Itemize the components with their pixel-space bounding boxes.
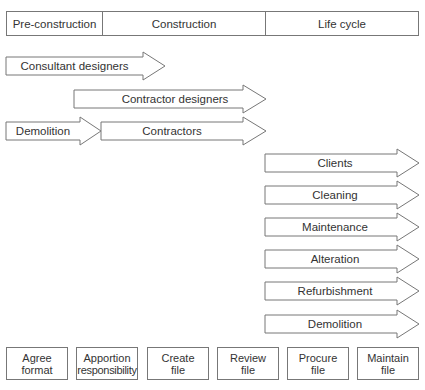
task-line: Apportion: [77, 352, 136, 364]
task-review-file: Reviewfile: [217, 347, 279, 380]
task-line: file: [161, 364, 194, 376]
task-line: Agree: [21, 352, 52, 364]
arrow-maintenance: Maintenance: [265, 218, 405, 236]
task-agree-format: Agreeformat: [6, 347, 68, 380]
task-line: file: [367, 364, 409, 376]
task-line: format: [21, 364, 52, 376]
file-responsibility-diagram: Pre-construction Construction Life cycle…: [0, 0, 425, 390]
task-line: Review: [230, 352, 266, 364]
arrow-contractor-designers: Contractor designers: [100, 90, 250, 108]
task-line: Maintain: [367, 352, 409, 364]
task-maintain-file: Maintainfile: [357, 347, 419, 380]
arrow-clients: Clients: [265, 154, 405, 172]
task-line: file: [299, 364, 338, 376]
task-line: Create: [161, 352, 194, 364]
arrow-demolition-pre-construction: Demolition: [6, 122, 80, 140]
task-create-file: Createfile: [147, 347, 209, 380]
task-line: Procure: [299, 352, 338, 364]
arrow-alteration: Alteration: [265, 250, 405, 268]
task-line: file: [230, 364, 266, 376]
arrow-contractors: Contractors: [101, 122, 243, 140]
arrow-refurbishment: Refurbishment: [265, 282, 405, 300]
arrow-demolition-life-cycle: Demolition: [265, 315, 405, 333]
arrow-cleaning: Cleaning: [265, 186, 405, 204]
task-procure-file: Procurefile: [287, 347, 349, 380]
arrow-consultant-designers: Consultant designers: [6, 57, 143, 75]
task-line: responsibility: [77, 364, 136, 376]
task-apportion-responsibility: Apportionresponsibility: [76, 347, 138, 380]
